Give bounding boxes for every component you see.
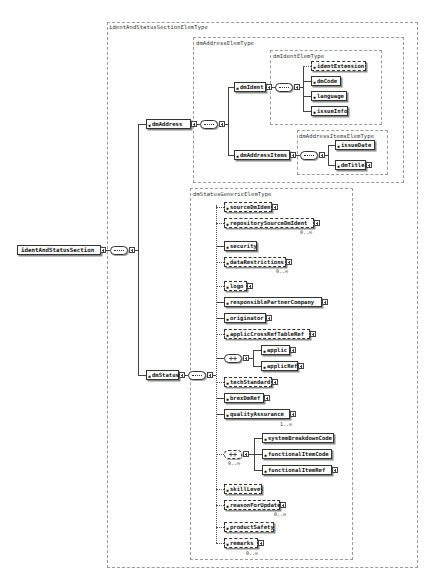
expand-icon[interactable]: [332, 467, 338, 473]
element-skill-level[interactable]: ▪ skillLevel: [224, 484, 262, 494]
element-source-dm-ident[interactable]: ▪ sourceDmIdent: [224, 202, 272, 212]
expand-icon[interactable]: [258, 540, 264, 546]
connector: [216, 302, 224, 303]
element-applic[interactable]: ▪ applic: [261, 345, 290, 355]
element-marker-icon: ▪: [226, 540, 229, 548]
element-data-restrictions[interactable]: ▪ dataRestrictions: [224, 257, 286, 267]
element-dm-address-items[interactable]: ▪ dmAddressItems: [234, 150, 290, 160]
element-issue-info[interactable]: ▪ issueInfo: [311, 106, 348, 116]
element-label: issueInfo: [317, 108, 347, 114]
connector: [216, 334, 224, 335]
element-label: remarks: [230, 540, 254, 546]
sequence-icon: [188, 371, 206, 380]
connector: [328, 165, 335, 166]
expand-icon[interactable]: [272, 204, 278, 210]
connector: [216, 505, 224, 506]
element-responsible-partner-company[interactable]: ▪ responsiblePartnerCompany: [224, 297, 322, 307]
element-applic-ref[interactable]: ▪ applicRef: [261, 361, 298, 371]
element-marker-icon: ▪: [226, 502, 229, 510]
connector: [216, 543, 224, 544]
element-marker-icon: ▪: [226, 379, 229, 387]
element-marker-icon: ▪: [226, 283, 229, 291]
element-marker-icon: ▪: [226, 524, 229, 532]
type-label-address: dmAddressElemType: [196, 40, 254, 46]
element-language[interactable]: ▪ language: [311, 91, 347, 101]
connector: [216, 223, 224, 224]
element-ident-extension[interactable]: ▪ identExtension: [311, 61, 366, 71]
connector: [253, 350, 261, 351]
connector: [216, 382, 224, 383]
connector: [216, 318, 224, 319]
element-logo[interactable]: ▪ logo: [224, 281, 247, 291]
element-tech-standard[interactable]: ▪ techStandard: [224, 377, 272, 387]
element-applic-cross-ref-table-ref[interactable]: ▪ applicCrossRefTableRef: [224, 329, 310, 339]
connector: [303, 66, 311, 67]
connector: [216, 286, 224, 287]
element-functional-item-ref[interactable]: ▪ functionalItemRef: [262, 465, 332, 475]
sequence-icon: [200, 120, 218, 129]
element-label: dmAddress: [152, 121, 182, 127]
element-remarks[interactable]: ▪ remarks: [224, 538, 258, 548]
expand-icon[interactable]: [266, 315, 272, 321]
root-element-label: identAndStatusSection: [21, 247, 94, 253]
element-marker-icon: ▪: [264, 435, 267, 443]
expand-icon[interactable]: [280, 502, 286, 508]
choice-icon: [224, 354, 242, 363]
element-dm-ident[interactable]: ▪ dmIdent: [234, 82, 266, 92]
connector: [253, 350, 254, 367]
expand-icon[interactable]: [310, 331, 316, 337]
expand-icon[interactable]: [366, 162, 372, 168]
element-marker-icon: ▪: [226, 331, 229, 339]
connector: [216, 398, 224, 399]
expand-icon[interactable]: [286, 259, 292, 265]
type-label-outer: identAndStatusSectionElemType: [109, 24, 208, 30]
expand-icon[interactable]: [272, 379, 278, 385]
element-label: dmTitle: [341, 162, 365, 168]
element-dm-address[interactable]: ▪ dmAddress: [146, 119, 191, 129]
element-marker-icon: ▪: [264, 467, 267, 475]
element-issue-date[interactable]: ▪ issueDate: [335, 140, 375, 150]
element-label: issueDate: [341, 142, 371, 148]
connector: [303, 66, 304, 112]
element-marker-icon: ▪: [226, 315, 229, 323]
connector: [254, 470, 262, 471]
element-product-safety[interactable]: ▪ productSafety: [224, 522, 274, 532]
expand-icon[interactable]: [290, 347, 296, 353]
element-label: applic: [267, 347, 287, 353]
expand-icon[interactable]: [247, 283, 253, 289]
connector: [138, 124, 139, 376]
schema-diagram: identAndStatusSectionElemType dmAddressE…: [0, 0, 429, 583]
cardinality-label: 0..∞: [276, 268, 288, 274]
element-quality-assurance[interactable]: ▪ qualityAssurance: [224, 409, 290, 419]
element-label: productSafety: [230, 524, 274, 530]
element-dm-title[interactable]: ▪ dmTitle: [335, 160, 366, 170]
expand-icon[interactable]: [322, 299, 328, 305]
root-element-ident-and-status-section[interactable]: identAndStatusSection: [17, 245, 101, 255]
expand-icon[interactable]: [298, 363, 304, 369]
element-security[interactable]: ▪ security: [224, 241, 257, 251]
connector: [328, 145, 335, 146]
element-functional-item-code[interactable]: ▪ functionalItemCode: [262, 449, 332, 459]
element-label: originator: [230, 315, 264, 321]
type-label-status: dmStatusGenericElemType: [193, 191, 271, 197]
element-label: dmCode: [317, 78, 337, 84]
connector: [216, 489, 224, 490]
element-brex-dm-ref[interactable]: ▪ brexDmRef: [224, 393, 264, 403]
element-marker-icon: ▪: [148, 121, 151, 129]
sequence-icon: [110, 246, 128, 255]
expand-icon[interactable]: [314, 220, 320, 226]
element-originator[interactable]: ▪ originator: [224, 313, 266, 323]
element-label: reasonForUpdate: [230, 502, 281, 508]
element-dm-status[interactable]: ▪ dmStatus: [146, 370, 179, 380]
element-label: qualityAssurance: [230, 411, 284, 417]
connector: [228, 87, 229, 156]
element-reason-for-update[interactable]: ▪ reasonForUpdate: [224, 500, 280, 510]
expand-icon[interactable]: [264, 395, 270, 401]
element-repository-source-dm-ident[interactable]: ▪ repositorySourceDmIdent: [224, 218, 314, 228]
connector: [253, 366, 261, 367]
element-marker-icon: ▪: [313, 108, 316, 116]
element-dm-code[interactable]: ▪ dmCode: [311, 76, 341, 86]
element-label: systemBreakdownCode: [268, 435, 332, 441]
expand-icon[interactable]: [290, 411, 296, 417]
element-system-breakdown-code[interactable]: ▪ systemBreakdownCode: [262, 433, 334, 443]
